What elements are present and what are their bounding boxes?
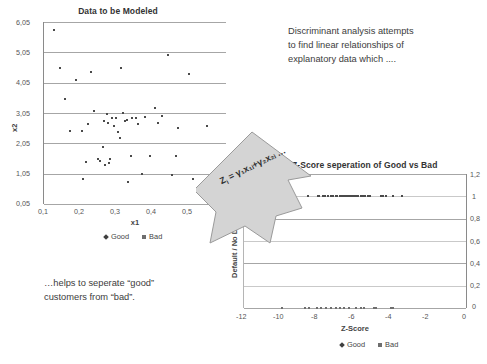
data-point-good bbox=[385, 195, 387, 197]
right-y-tick-0: 0 bbox=[472, 302, 476, 311]
data-point-good bbox=[104, 164, 106, 166]
legend-good-marker-icon bbox=[339, 342, 345, 348]
right-y-tick-3: 0,6 bbox=[470, 237, 480, 246]
data-point-good bbox=[177, 127, 179, 129]
data-point-good bbox=[126, 119, 128, 121]
left-chart-y-axis-title: x2 bbox=[10, 124, 19, 132]
left-y-tick-1: 1,05 bbox=[16, 169, 30, 178]
data-point-good bbox=[192, 178, 194, 180]
data-point-good bbox=[115, 117, 117, 119]
data-point-good bbox=[109, 158, 111, 160]
data-point-good bbox=[111, 117, 113, 119]
legend-bad-label: Bad bbox=[149, 232, 162, 241]
data-point-bad bbox=[363, 307, 365, 309]
right-x-tick-6: 0 bbox=[462, 312, 466, 321]
data-point-bad bbox=[335, 307, 337, 309]
left-x-tick-3: 0,4 bbox=[146, 207, 156, 216]
data-point-good bbox=[157, 122, 159, 124]
right-x-tick-0: -12 bbox=[236, 312, 246, 321]
legend-bad-marker-icon bbox=[378, 343, 382, 347]
left-y-tick-4: 4,05 bbox=[16, 78, 30, 87]
left-x-tick-1: 0,2 bbox=[74, 207, 84, 216]
process-arrow: Zi = γ₁x₁ᵢ+γ₂x₂ᵢ … bbox=[196, 130, 336, 245]
data-point-good bbox=[90, 71, 92, 73]
data-point-good bbox=[103, 120, 105, 122]
data-point-good bbox=[120, 67, 122, 69]
data-point-good bbox=[82, 178, 84, 180]
data-point-bad bbox=[281, 307, 283, 309]
axis-line bbox=[466, 174, 467, 308]
data-point-good bbox=[175, 155, 177, 157]
gridline bbox=[44, 22, 226, 23]
data-point-good bbox=[392, 195, 394, 197]
left-y-tick-3: 3,05 bbox=[16, 109, 30, 118]
arrow-shape-icon bbox=[196, 130, 336, 245]
note-line-1: to find linear relationships of bbox=[288, 38, 484, 52]
data-point-good bbox=[137, 123, 139, 125]
data-point-good bbox=[369, 195, 371, 197]
left-y-tick-6: 6,05 bbox=[16, 18, 30, 27]
note-discriminant-analysis: Discriminant analysis attempts to find l… bbox=[288, 24, 484, 66]
data-point-good bbox=[130, 155, 132, 157]
data-point-bad bbox=[375, 307, 377, 309]
data-point-good bbox=[93, 110, 95, 112]
gridline bbox=[44, 52, 226, 53]
right-chart-legend: Good Bad bbox=[340, 340, 398, 349]
left-y-tick-2: 2,05 bbox=[16, 139, 30, 148]
data-point-good bbox=[69, 130, 71, 132]
data-point-good bbox=[122, 112, 124, 114]
right-x-tick-1: -10 bbox=[273, 312, 283, 321]
data-point-good bbox=[135, 117, 137, 119]
note-bottom-line-0: …helps to seperate “good” bbox=[44, 276, 234, 290]
data-point-good bbox=[144, 116, 146, 118]
gridline bbox=[44, 113, 226, 114]
left-x-tick-4: 0,5 bbox=[182, 207, 192, 216]
data-point-good bbox=[106, 113, 108, 115]
right-x-tick-4: -4 bbox=[385, 312, 391, 321]
right-chart-x-axis-title: Z-Score bbox=[244, 324, 466, 333]
left-chart-title: Data to be Modeled bbox=[4, 6, 232, 16]
data-point-bad bbox=[330, 307, 332, 309]
data-point-bad bbox=[304, 307, 306, 309]
data-point-good bbox=[167, 54, 169, 56]
data-point-good bbox=[149, 155, 151, 157]
data-point-good bbox=[99, 160, 101, 162]
right-x-tick-5: -2 bbox=[422, 312, 428, 321]
data-point-bad bbox=[348, 307, 350, 309]
data-point-good bbox=[64, 98, 66, 100]
data-point-good bbox=[131, 117, 133, 119]
right-x-tick-3: -6 bbox=[348, 312, 354, 321]
data-point-good bbox=[117, 131, 119, 133]
data-point-good bbox=[119, 137, 121, 139]
data-point-bad bbox=[320, 307, 322, 309]
data-point-good bbox=[81, 130, 83, 132]
data-point-good bbox=[107, 122, 109, 124]
data-point-good bbox=[102, 146, 104, 148]
data-point-bad bbox=[316, 307, 318, 309]
data-point-good bbox=[161, 115, 163, 117]
legend-good-marker-icon bbox=[103, 234, 109, 240]
data-point-bad bbox=[392, 307, 394, 309]
note-line-0: Discriminant analysis attempts bbox=[288, 24, 484, 38]
legend-good-label: Good bbox=[347, 340, 365, 349]
note-helps-separate: …helps to seperate “good” customers from… bbox=[44, 276, 234, 304]
data-point-good bbox=[108, 162, 110, 164]
data-point-bad bbox=[325, 307, 327, 309]
axis-line bbox=[43, 22, 44, 204]
data-point-good bbox=[206, 125, 208, 127]
right-y-tick-4: 0,8 bbox=[470, 214, 480, 223]
left-y-tick-5: 5,05 bbox=[16, 48, 30, 57]
left-x-tick-2: 0,3 bbox=[110, 207, 120, 216]
data-point-good bbox=[188, 73, 190, 75]
data-point-good bbox=[85, 161, 87, 163]
data-point-bad bbox=[355, 307, 357, 309]
right-y-tick-6: 1,2 bbox=[470, 170, 480, 179]
note-line-2: explanatory data which .... bbox=[288, 52, 484, 66]
data-point-good bbox=[53, 29, 55, 31]
right-y-tick-5: 1 bbox=[472, 192, 476, 201]
legend-bad-label: Bad bbox=[385, 340, 398, 349]
legend-bad-marker-icon bbox=[142, 235, 146, 239]
left-x-tick-0: 0,1 bbox=[38, 207, 48, 216]
legend-good-label: Good bbox=[111, 232, 129, 241]
right-x-tick-2: -8 bbox=[311, 312, 317, 321]
